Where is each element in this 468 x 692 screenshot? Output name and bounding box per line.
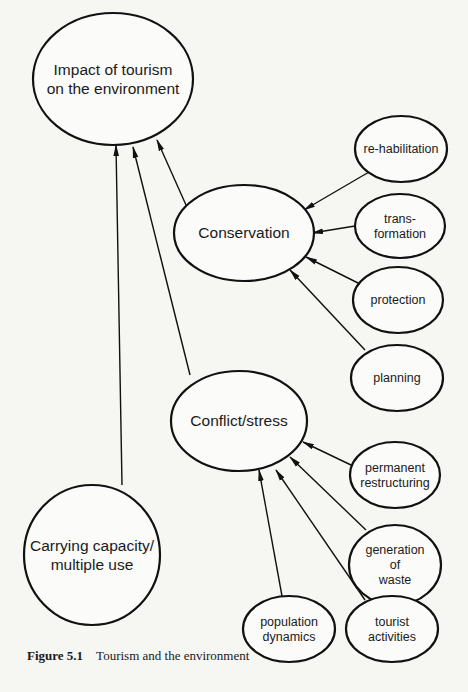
- node-carrying: Carrying capacity/multiple use: [24, 485, 160, 625]
- node-label-population: dynamics: [263, 630, 316, 644]
- node-planning: planning: [351, 345, 443, 411]
- node-label-impact: Impact of tourism: [54, 61, 173, 78]
- node-population: populationdynamics: [243, 596, 335, 662]
- node-label-population: population: [260, 615, 318, 629]
- arrow-carrying-to-impact: [116, 145, 122, 485]
- node-label-transform: trans-: [384, 212, 416, 226]
- node-label-rehab: re-habilitation: [363, 142, 438, 156]
- node-label-transform: formation: [374, 227, 426, 241]
- node-rehab: re-habilitation: [355, 116, 447, 182]
- arrow-rehab-to-conservation: [304, 172, 369, 210]
- node-protection: protection: [353, 267, 443, 333]
- arrow-population-to-conflict: [259, 470, 282, 596]
- node-label-tourist: activities: [368, 630, 416, 644]
- arrow-protection-to-conservation: [306, 257, 360, 284]
- node-label-permanent: permanent: [365, 461, 425, 475]
- nodes-layer: Impact of tourismon the environmentConse…: [24, 13, 447, 662]
- arrow-conservation-to-impact: [157, 140, 186, 205]
- node-label-carrying: Carrying capacity/: [30, 537, 155, 554]
- arrow-conflict-to-impact: [133, 147, 190, 375]
- arrow-permanent-to-conflict: [303, 442, 351, 465]
- node-label-planning: planning: [373, 371, 420, 385]
- node-label-conservation: Conservation: [198, 224, 289, 241]
- figure-caption: Figure 5.1 Tourism and the environment: [27, 648, 249, 664]
- node-label-waste: of: [390, 558, 401, 572]
- node-permanent: permanentrestructuring: [350, 442, 440, 508]
- diagram-canvas: Impact of tourismon the environmentConse…: [0, 0, 468, 692]
- node-label-waste: waste: [378, 573, 412, 587]
- node-label-conflict: Conflict/stress: [190, 412, 288, 429]
- figure-title: Tourism and the environment: [96, 648, 249, 663]
- node-label-protection: protection: [371, 293, 426, 307]
- node-label-impact: on the environment: [47, 80, 180, 97]
- node-label-tourist: tourist: [375, 615, 410, 629]
- arrow-planning-to-conservation: [290, 270, 365, 350]
- arrow-transform-to-conservation: [312, 226, 355, 233]
- node-label-waste: generation: [365, 543, 424, 557]
- node-waste: generationofwaste: [349, 525, 441, 605]
- figure-label: Figure 5.1: [27, 648, 83, 663]
- node-conservation: Conservation: [174, 185, 314, 281]
- node-impact: Impact of tourismon the environment: [33, 13, 193, 145]
- node-conflict: Conflict/stress: [171, 371, 307, 471]
- node-label-carrying: multiple use: [51, 556, 134, 573]
- node-transform: trans-formation: [355, 194, 445, 258]
- node-tourist: touristactivities: [346, 596, 438, 662]
- node-label-permanent: restructuring: [360, 476, 430, 490]
